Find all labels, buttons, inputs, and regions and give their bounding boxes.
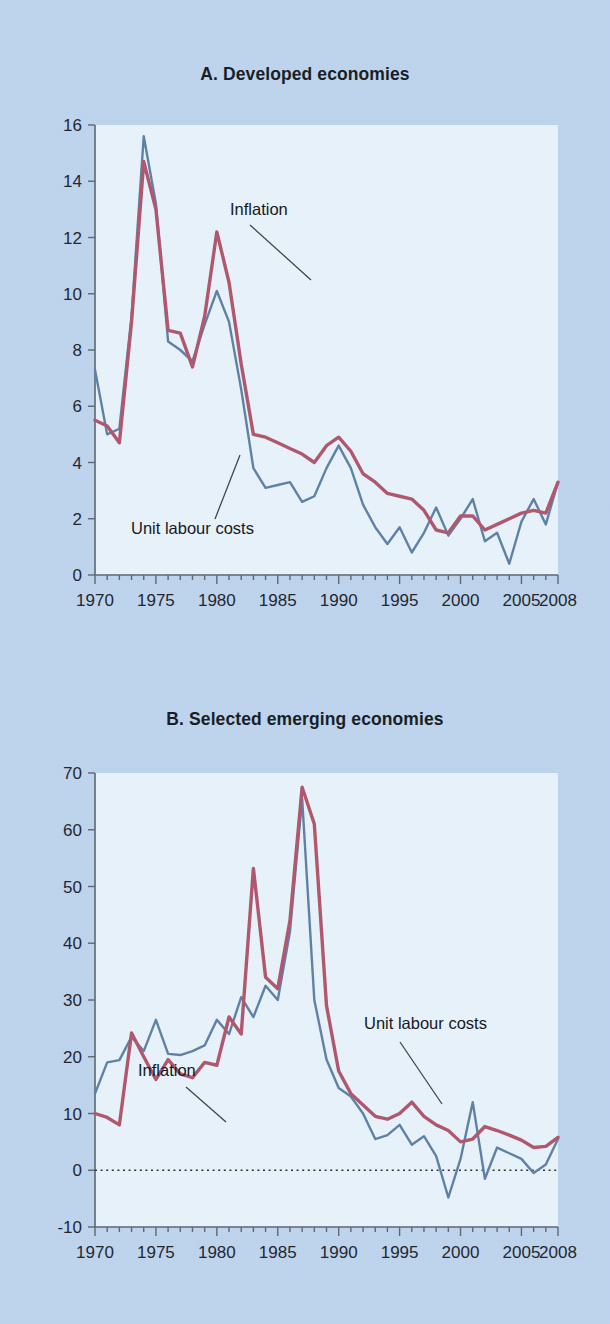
annotation-unit-labour-costs-label: Unit labour costs — [364, 1014, 487, 1032]
annotation-unit-labour-costs-label: Unit labour costs — [131, 519, 254, 537]
chart-a-canvas: 0246810121416197019751980198519901995200… — [0, 0, 610, 660]
y-axis-tick-label: 2 — [73, 510, 82, 529]
x-axis-tick-label: 1975 — [137, 1243, 175, 1262]
y-axis-tick-label: -10 — [57, 1218, 82, 1237]
y-axis-tick-label: 30 — [63, 991, 82, 1010]
y-axis-tick-label: 14 — [63, 172, 82, 191]
x-axis-tick-label: 2005 — [503, 1243, 541, 1262]
y-axis-tick-label: 50 — [63, 878, 82, 897]
x-axis-tick-label: 1985 — [259, 1243, 297, 1262]
x-axis-tick-label: 1985 — [259, 591, 297, 610]
x-axis-tick-label: 2008 — [539, 1243, 577, 1262]
chart-b-canvas: -100102030405060701970197519801985199019… — [0, 660, 610, 1324]
annotation-inflation-label: Inflation — [138, 1061, 196, 1079]
x-axis-tick-label: 2008 — [539, 591, 577, 610]
x-axis-tick-label: 1995 — [381, 1243, 419, 1262]
y-axis-tick-label: 0 — [73, 566, 82, 585]
x-axis-tick-label: 1975 — [137, 591, 175, 610]
y-axis-tick-label: 12 — [63, 229, 82, 248]
x-axis-tick-label: 2005 — [503, 591, 541, 610]
x-axis-tick-label: 1970 — [76, 1243, 114, 1262]
y-axis-tick-label: 0 — [73, 1161, 82, 1180]
y-axis-tick-label: 10 — [63, 285, 82, 304]
y-axis-tick-label: 40 — [63, 934, 82, 953]
annotation-inflation-label: Inflation — [230, 200, 288, 218]
y-axis-tick-label: 10 — [63, 1105, 82, 1124]
y-axis-tick-label: 6 — [73, 397, 82, 416]
y-axis-tick-label: 20 — [63, 1048, 82, 1067]
y-axis-tick-label: 60 — [63, 821, 82, 840]
x-axis-tick-label: 1980 — [198, 591, 236, 610]
x-axis-tick-label: 1970 — [76, 591, 114, 610]
chart-panel-developed-economies: A. Developed economies 02468101214161970… — [0, 0, 610, 660]
x-axis-tick-label: 1990 — [320, 591, 358, 610]
chart-panel-emerging-economies: B. Selected emerging economies -10010203… — [0, 660, 610, 1324]
y-axis-tick-label: 16 — [63, 116, 82, 135]
x-axis-tick-label: 2000 — [442, 1243, 480, 1262]
y-axis-tick-label: 8 — [73, 341, 82, 360]
x-axis-tick-label: 1980 — [198, 1243, 236, 1262]
y-axis-tick-label: 4 — [73, 454, 82, 473]
x-axis-tick-label: 1995 — [381, 591, 419, 610]
x-axis-tick-label: 2000 — [442, 591, 480, 610]
y-axis-tick-label: 70 — [63, 764, 82, 783]
x-axis-tick-label: 1990 — [320, 1243, 358, 1262]
